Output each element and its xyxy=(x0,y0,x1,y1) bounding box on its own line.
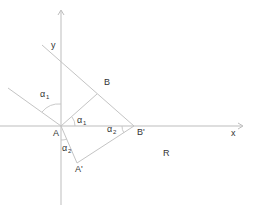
angle-arc-alpha2-right xyxy=(122,126,124,133)
angle-label-alpha1-lower: α 1 xyxy=(77,115,87,126)
svg-text:α: α xyxy=(107,124,112,134)
point-label-A-prime: A' xyxy=(75,164,83,174)
svg-text:α: α xyxy=(40,89,45,99)
angle-label-alpha2-lower: α 2 xyxy=(62,143,72,154)
x-axis xyxy=(0,123,243,129)
region-label-R: R xyxy=(163,148,170,158)
angle-arc-alpha2-lower xyxy=(61,139,67,140)
point-label-B: B xyxy=(104,77,110,87)
angle-arc-alpha1-lower xyxy=(72,117,75,126)
x-axis-label: x xyxy=(231,128,236,138)
mirror-line xyxy=(42,45,134,126)
svg-text:1: 1 xyxy=(83,120,87,126)
svg-text:α: α xyxy=(62,143,67,153)
y-axis xyxy=(58,10,64,205)
incident-ray-line xyxy=(8,88,61,126)
svg-text:1: 1 xyxy=(46,94,50,100)
angle-arc-alpha1-upper xyxy=(42,104,61,112)
reflection-diagram: y x B A B' A' R α 1 α 1 α 2 α 2 xyxy=(0,0,257,217)
point-label-B-prime: B' xyxy=(137,127,145,137)
angle-label-alpha1-upper: α 1 xyxy=(40,89,50,100)
y-axis-label: y xyxy=(51,40,56,50)
svg-text:α: α xyxy=(77,115,82,125)
svg-text:2: 2 xyxy=(113,129,117,135)
segment-A-prime-B-prime xyxy=(77,126,134,163)
point-label-A: A xyxy=(53,128,59,138)
